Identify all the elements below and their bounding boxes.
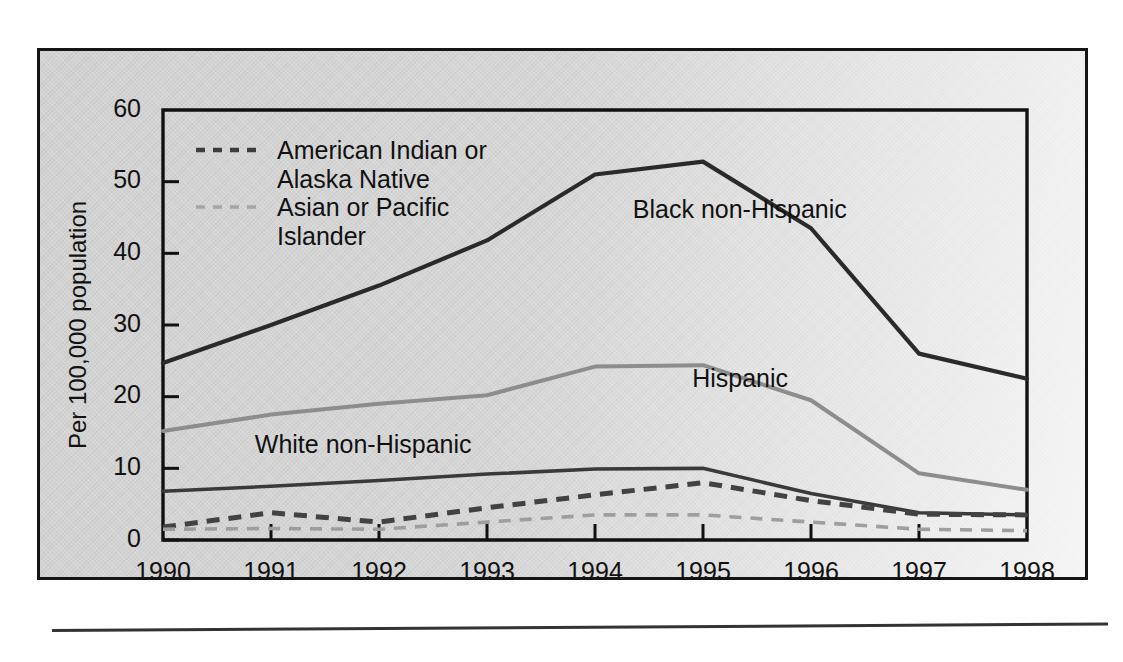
y-axis-tick-labels: 0102030405060 <box>113 94 141 552</box>
x-tick-label: 1992 <box>351 557 407 585</box>
x-axis-tick-labels: 199019911992199319941995199619971998 <box>135 557 1055 585</box>
y-axis-label: Per 100,000 population <box>64 201 91 449</box>
series-line-white-non-hispanic <box>163 468 1027 515</box>
x-tick-label: 1997 <box>891 557 947 585</box>
legend-label-asian-or-pacific-islander-line2: Islander <box>277 222 366 250</box>
series-inline-label-white-non-hispanic: White non-Hispanic <box>255 430 472 458</box>
line-chart: 0102030405060 19901991199219931994199519… <box>0 0 1123 662</box>
legend-label-american-indian-or-alaska-native-line2: Alaska Native <box>277 165 430 193</box>
x-tick-label: 1993 <box>459 557 515 585</box>
y-tick-label: 0 <box>127 524 141 552</box>
series-inline-label-black-non-hispanic: Black non-Hispanic <box>633 195 847 223</box>
legend-label-american-indian-or-alaska-native-line1: American Indian or <box>277 136 487 164</box>
x-tick-label: 1990 <box>135 557 191 585</box>
legend: American Indian or Alaska Native Asian o… <box>196 136 487 250</box>
y-tick-label: 60 <box>113 94 141 122</box>
x-tick-label: 1995 <box>675 557 731 585</box>
figure-root: 0102030405060 19901991199219931994199519… <box>0 0 1123 662</box>
series-line-american-indian-or-alaska-native <box>163 483 1027 527</box>
series-line-hispanic <box>163 365 1027 490</box>
x-tick-label: 1994 <box>567 557 623 585</box>
y-tick-label: 50 <box>113 165 141 193</box>
x-axis-ticks <box>271 524 919 540</box>
series-inline-label-hispanic: Hispanic <box>692 364 788 392</box>
y-tick-label: 30 <box>113 309 141 337</box>
x-tick-label: 1998 <box>999 557 1055 585</box>
y-tick-label: 10 <box>113 452 141 480</box>
y-tick-label: 40 <box>113 237 141 265</box>
legend-label-asian-or-pacific-islander-line1: Asian or Pacific <box>277 193 449 221</box>
y-tick-label: 20 <box>113 380 141 408</box>
x-tick-label: 1996 <box>783 557 839 585</box>
x-tick-label: 1991 <box>243 557 299 585</box>
